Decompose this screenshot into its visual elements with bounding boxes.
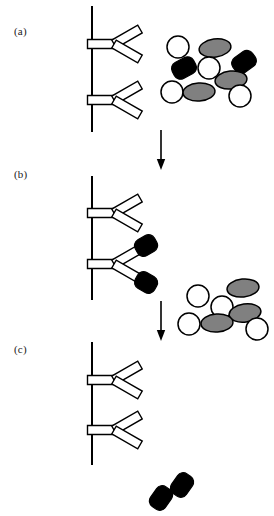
- panel-label-b: (b): [14, 169, 27, 180]
- particle-a-white-circle-6-body: [161, 81, 183, 103]
- arrow-b-to-c: [157, 301, 165, 341]
- particle-a-white-circle-4: [198, 57, 220, 79]
- particle-a-white-circle-0: [167, 36, 189, 58]
- particle-b-gray-ellipse-5-body: [200, 313, 233, 333]
- particle-b-white-circle-0-body: [187, 285, 209, 307]
- antibody-a-top: [88, 25, 143, 63]
- arrow-a-to-b: [157, 130, 165, 170]
- particle-a-gray-ellipse-1: [198, 37, 232, 59]
- particle-a-black-capsule-3: [169, 54, 199, 81]
- panel-b: [88, 176, 269, 340]
- particle-a-gray-ellipse-7: [182, 82, 215, 102]
- arrow-a-to-b-head: [157, 159, 165, 170]
- particle-b-white-circle-6: [246, 318, 268, 340]
- antibody-c-bottom: [88, 411, 143, 449]
- antibody-b-top: [88, 194, 143, 232]
- antibody-b-top-arm-lower: [112, 209, 142, 232]
- antibody-a-top-arm-lower: [112, 40, 142, 63]
- particle-b-white-circle-0: [187, 285, 209, 307]
- particle-a-white-circle-6: [161, 81, 183, 103]
- immunoassay-figure: (a) (b) (c): [0, 0, 274, 516]
- particle-a-black-capsule-3-body: [169, 54, 199, 81]
- particle-a-white-circle-8: [229, 85, 251, 107]
- particle-b-white-circle-6-body: [246, 318, 268, 340]
- particle-b-gray-ellipse-1: [226, 277, 260, 298]
- particle-a-white-circle-0-body: [167, 36, 189, 58]
- particle-a-white-circle-8-body: [229, 85, 251, 107]
- panel-a: [88, 6, 259, 132]
- particle-a-white-circle-4-body: [198, 57, 220, 79]
- antibody-b-bottom: [88, 245, 143, 283]
- particle-a-gray-ellipse-7-body: [182, 82, 215, 102]
- antibody-a-bottom: [88, 81, 143, 119]
- particle-b-gray-ellipse-5: [200, 313, 233, 333]
- particle-b-white-circle-4-body: [178, 313, 200, 335]
- antibody-b-bottom-stem: [88, 260, 115, 269]
- antibody-c-bottom-stem: [88, 426, 115, 435]
- figure-graphics-layer: [0, 0, 274, 516]
- arrow-b-to-c-head: [157, 330, 165, 341]
- antibody-a-bottom-arm-lower: [112, 96, 142, 119]
- antibody-c-top-arm-lower: [112, 376, 142, 399]
- particle-b-gray-ellipse-1-body: [226, 277, 260, 298]
- antibody-c-top: [88, 361, 143, 399]
- antibody-b-top-stem: [88, 209, 115, 218]
- antibody-c-bottom-arm-lower: [112, 426, 142, 449]
- panel-label-a: (a): [14, 26, 27, 37]
- antibody-a-top-stem: [88, 40, 115, 49]
- particle-a-gray-ellipse-1-body: [198, 37, 232, 59]
- antibody-a-bottom-stem: [88, 96, 115, 105]
- particle-b-white-circle-4: [178, 313, 200, 335]
- antibody-c-top-stem: [88, 376, 115, 385]
- panel-c: [88, 342, 197, 513]
- panel-label-c: (c): [14, 344, 27, 355]
